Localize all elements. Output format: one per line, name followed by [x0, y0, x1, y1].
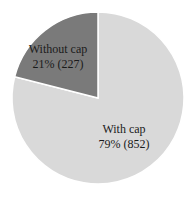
label-with-cap-value: 79% (852): [99, 137, 150, 151]
pie-chart: Without cap 21% (227) With cap 79% (852): [0, 0, 193, 197]
label-without-cap-value: 21% (227): [33, 57, 84, 71]
label-without-cap-name: Without cap: [29, 42, 88, 56]
label-with-cap-name: With cap: [102, 122, 145, 136]
